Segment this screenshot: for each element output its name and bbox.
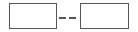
range-input xyxy=(0,0,138,32)
range-separator-dash xyxy=(69,17,76,19)
range-to-field[interactable] xyxy=(80,3,129,29)
range-separator-dash xyxy=(59,17,66,19)
range-from-field[interactable] xyxy=(9,3,57,29)
